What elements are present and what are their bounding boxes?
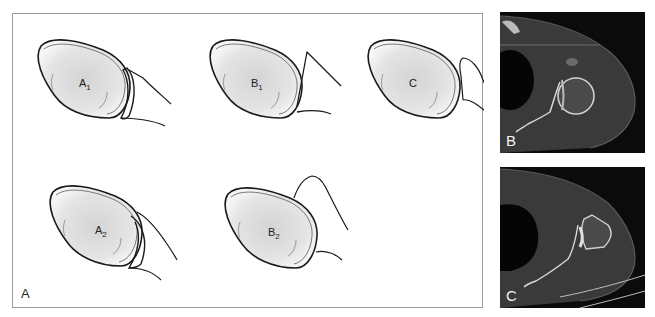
shape-a2: A2 bbox=[50, 186, 177, 280]
ct-image-b bbox=[500, 12, 645, 153]
panel-a-diagram: A1 B1 C A2 bbox=[12, 13, 483, 308]
glenoid-shape-diagrams: A1 B1 C A2 bbox=[13, 14, 484, 309]
shape-a1: A1 bbox=[38, 40, 171, 126]
shape-label-c: C bbox=[409, 77, 417, 89]
panel-a-label: A bbox=[21, 286, 30, 301]
panel-b-label: B bbox=[506, 132, 516, 149]
ct-scan-b: B bbox=[500, 12, 645, 153]
ct-scan-c: C bbox=[500, 167, 645, 308]
panel-c-label: C bbox=[506, 287, 517, 304]
shape-b2: B2 bbox=[225, 176, 348, 268]
ct-image-c bbox=[500, 167, 645, 308]
shape-c: C bbox=[368, 40, 484, 118]
shape-b1: B1 bbox=[210, 40, 341, 118]
